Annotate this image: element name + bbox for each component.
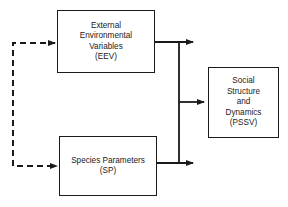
feedback-dashed-connector [13,43,57,166]
node-pssv-line: and [237,97,251,108]
node-pssv-line: Dynamics [226,108,262,119]
node-eev: External Environmental Variables (EEV) [57,10,155,73]
node-eev-line: (EEV) [95,52,117,63]
node-pssv: Social Structure and Dynamics (PSSV) [208,67,279,138]
node-pssv-line: Structure [227,87,260,98]
node-pssv-line: (PSSV) [230,118,257,129]
node-eev-line: External [91,21,121,32]
solid-bus-connector [155,42,204,163]
node-eev-line: Variables [89,42,123,53]
node-sp: Species Parameters (SP) [59,136,157,196]
node-pssv-line: Social [232,76,254,87]
node-sp-line: Species Parameters [71,156,145,167]
node-sp-line: (SP) [100,166,116,177]
node-eev-line: Environmental [80,31,132,42]
